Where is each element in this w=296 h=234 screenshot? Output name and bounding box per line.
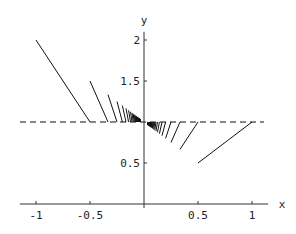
x-tick-label: -1 xyxy=(29,209,42,222)
y-axis-label: y xyxy=(141,14,148,27)
chart-plot: -1-0.50.510.51.52xy xyxy=(0,0,296,234)
y-tick-label: 1.5 xyxy=(120,75,140,88)
x-tick-label: 1 xyxy=(249,209,256,222)
axes xyxy=(20,32,268,208)
x-axis-label: x xyxy=(279,198,286,211)
right-segment xyxy=(198,122,252,163)
left-segment xyxy=(122,106,126,122)
left-segment xyxy=(36,40,90,122)
right-segment xyxy=(162,122,166,136)
axis-labels: -1-0.50.510.51.52xy xyxy=(29,14,285,222)
right-segment xyxy=(159,122,162,134)
left-segment xyxy=(117,102,122,123)
left-segment xyxy=(108,95,117,122)
right-segment xyxy=(166,122,171,138)
right-segment xyxy=(180,122,198,149)
left-segment xyxy=(90,81,108,122)
y-tick-label: 0.5 xyxy=(120,157,140,170)
x-tick-label: -0.5 xyxy=(77,209,104,222)
y-tick-label: 2 xyxy=(133,34,140,47)
right-segment xyxy=(171,122,180,143)
x-tick-label: 0.5 xyxy=(188,209,208,222)
right-segment xyxy=(158,122,160,132)
